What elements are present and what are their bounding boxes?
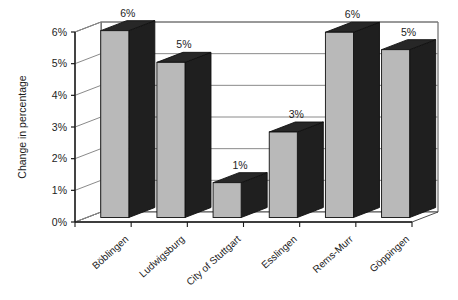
bar-front-face bbox=[157, 62, 185, 217]
bar bbox=[213, 173, 267, 218]
bar-front-face bbox=[269, 132, 297, 218]
bar-side-face bbox=[185, 52, 211, 217]
category-label: Göppingen bbox=[368, 233, 412, 274]
bar bbox=[101, 21, 155, 218]
y-tick-label: 2% bbox=[52, 152, 67, 164]
x-axis-ticks bbox=[75, 222, 412, 227]
chart-canvas: 0%1%2%3%4%5%6% 5%6%3%1%5%6% BöblingenLud… bbox=[0, 0, 458, 300]
bar bbox=[157, 52, 211, 217]
category-labels: BöblingenLudwigsburgCity of StuttgartEss… bbox=[90, 233, 411, 288]
bar-side-face bbox=[129, 21, 155, 218]
category-label: Böblingen bbox=[90, 233, 130, 271]
y-tick-label: 3% bbox=[52, 121, 67, 133]
y-tick-label: 0% bbox=[52, 216, 67, 228]
bar-side-face bbox=[297, 122, 323, 218]
bar-value-label: 3% bbox=[289, 108, 304, 120]
category-label: City of Stuttgart bbox=[184, 233, 243, 287]
bar-side-face bbox=[353, 22, 379, 217]
y-axis-title: Change in percentage bbox=[16, 75, 28, 178]
bar bbox=[269, 122, 323, 218]
bar-front-face bbox=[382, 50, 410, 218]
bar-value-label: 6% bbox=[345, 8, 360, 20]
category-label: Ludwigsburg bbox=[137, 233, 187, 279]
y-tick-label: 5% bbox=[52, 57, 67, 69]
bar-value-label: 1% bbox=[233, 159, 248, 171]
bar-front-face bbox=[101, 31, 129, 218]
bar bbox=[325, 22, 379, 217]
bar bbox=[382, 40, 436, 218]
y-tick-label: 4% bbox=[52, 89, 67, 101]
bar-value-label: 5% bbox=[176, 38, 191, 50]
bar-front-face bbox=[325, 32, 353, 217]
bar-chart: 0%1%2%3%4%5%6% 5%6%3%1%5%6% BöblingenLud… bbox=[0, 0, 458, 300]
bar-side-face bbox=[410, 40, 436, 218]
y-tick-label: 6% bbox=[52, 26, 67, 38]
bar-front-face bbox=[213, 183, 241, 218]
y-tick-label: 1% bbox=[52, 184, 67, 196]
y-axis-ticks: 0%1%2%3%4%5%6% bbox=[52, 26, 75, 228]
bar-value-label: 6% bbox=[120, 7, 135, 19]
bar-value-label: 5% bbox=[401, 26, 416, 38]
category-label: Rems-Murr bbox=[311, 233, 356, 275]
category-label: Esslingen bbox=[259, 233, 299, 270]
